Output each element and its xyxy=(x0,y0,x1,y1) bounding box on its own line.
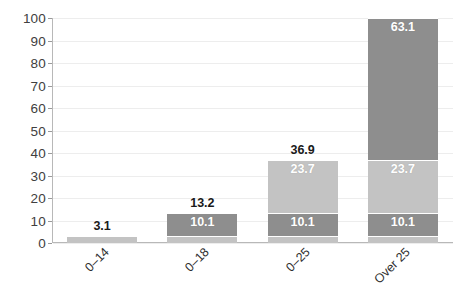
bar-segment-value: 10.1 xyxy=(391,214,415,229)
bar-segment[interactable]: 23.7 xyxy=(368,160,438,213)
bar-total-label: 3.1 xyxy=(67,219,137,233)
y-tick-mark xyxy=(48,41,52,42)
bar-segment-value: 23.7 xyxy=(290,161,314,176)
bar-total-label: 13.2 xyxy=(167,196,237,210)
y-tick-label: 0 xyxy=(38,236,46,251)
bar-segment[interactable]: 63.1 xyxy=(368,18,438,160)
bar-group[interactable]: 63.123.710.1 xyxy=(368,18,438,243)
bar-group[interactable]: 3.1 xyxy=(67,18,137,243)
bar-segment[interactable]: 10.1 xyxy=(368,213,438,236)
bar-segment[interactable] xyxy=(167,236,237,243)
y-tick-label: 90 xyxy=(31,33,46,48)
y-tick-label: 80 xyxy=(31,56,46,71)
y-tick-mark xyxy=(48,131,52,132)
bar-segment[interactable] xyxy=(268,236,338,243)
y-tick-label: 50 xyxy=(31,123,46,138)
gridline xyxy=(53,243,453,244)
bar-stack[interactable] xyxy=(67,236,137,243)
y-tick-label: 30 xyxy=(31,168,46,183)
bar-segment[interactable] xyxy=(368,236,438,243)
y-tick-mark xyxy=(48,63,52,64)
y-tick-label: 60 xyxy=(31,101,46,116)
bars-layer: 3.110.113.223.710.136.963.123.710.1 xyxy=(52,18,453,243)
bar-stack[interactable]: 23.710.1 xyxy=(268,160,338,243)
bar-stack[interactable]: 10.1 xyxy=(167,213,237,243)
bar-stack[interactable]: 63.123.710.1 xyxy=(368,18,438,243)
y-tick-mark xyxy=(48,153,52,154)
y-tick-label: 40 xyxy=(31,146,46,161)
bar-segment-value: 10.1 xyxy=(190,214,214,229)
x-axis-labels: 0–140–180–25Over 25 xyxy=(52,245,453,297)
bar-segment[interactable]: 23.7 xyxy=(268,160,338,213)
y-tick-mark xyxy=(48,176,52,177)
y-axis-labels: 0102030405060708090100 xyxy=(0,18,46,243)
y-tick-mark xyxy=(48,18,52,19)
y-tick-mark xyxy=(48,108,52,109)
bar-segment-value: 23.7 xyxy=(391,161,415,176)
bar-segment-value: 10.1 xyxy=(290,214,314,229)
bar-group[interactable]: 10.113.2 xyxy=(167,18,237,243)
bar-segment-value: 63.1 xyxy=(391,19,415,34)
bar-segment[interactable]: 10.1 xyxy=(268,213,338,236)
y-tick-mark xyxy=(48,86,52,87)
y-tick-label: 20 xyxy=(31,191,46,206)
y-tick-label: 100 xyxy=(23,11,46,26)
stacked-bar-chart: 0102030405060708090100 3.110.113.223.710… xyxy=(0,0,462,297)
y-tick-mark xyxy=(48,198,52,199)
x-tick-label: 0–14 xyxy=(0,245,112,297)
y-tick-mark xyxy=(48,243,52,244)
y-tick-label: 10 xyxy=(31,213,46,228)
bar-segment[interactable]: 10.1 xyxy=(167,213,237,236)
bar-total-label: 36.9 xyxy=(268,143,338,157)
bar-group[interactable]: 23.710.136.9 xyxy=(268,18,338,243)
bar-segment[interactable] xyxy=(67,236,137,243)
y-tick-mark xyxy=(48,221,52,222)
y-tick-label: 70 xyxy=(31,78,46,93)
